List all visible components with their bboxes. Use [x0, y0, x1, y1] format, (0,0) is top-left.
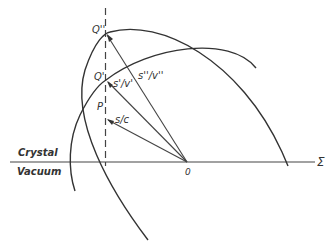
origin-label: 0 — [185, 167, 191, 177]
refraction-diagram: Q'' Q' P s''/v'' s'/v' s/c Crystal Vacuu… — [0, 0, 332, 242]
vector-label-q2: s''/v'' — [138, 70, 164, 81]
outer-wave-surface — [82, 29, 288, 240]
arrowhead-q2 — [107, 34, 113, 42]
region-label-vacuum: Vacuum — [17, 166, 61, 177]
axis-label-sigma: Σ — [317, 155, 325, 169]
vector-o-p — [108, 120, 187, 162]
vector-o-q2 — [107, 35, 187, 162]
arrowhead-p — [107, 119, 114, 125]
point-label-q1: Q' — [94, 71, 105, 82]
vector-label-p: s/c — [115, 114, 130, 125]
point-label-q2: Q'' — [92, 24, 105, 35]
vector-label-q1: s'/v' — [113, 78, 133, 89]
region-label-crystal: Crystal — [18, 147, 58, 158]
point-label-p: P — [97, 101, 104, 112]
